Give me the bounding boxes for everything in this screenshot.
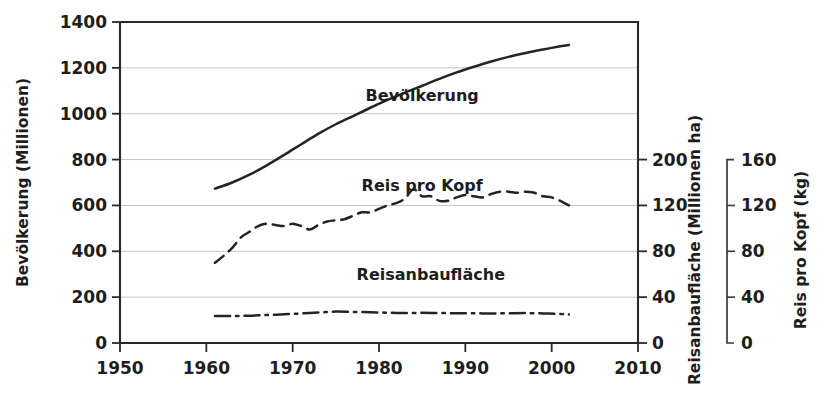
series-label-reisanbaufl-che: Reisanbaufläche: [357, 265, 506, 284]
percap-axis-tick-label: 80: [741, 241, 765, 261]
series-line-reisanbaufl-che: [215, 312, 569, 316]
right-area-axis-tick-label: 0: [652, 333, 664, 353]
right-area-axis-tick-label: 120: [652, 195, 688, 215]
left-axis-tick-label: 1400: [60, 12, 107, 32]
right-axis-reis-pro-kopf: 04080120160: [727, 150, 777, 353]
left-axis-tick-label: 200: [72, 287, 108, 307]
left-axis: 0200400600800100012001400: [60, 12, 120, 353]
x-axis-tick-label: 2010: [614, 358, 661, 378]
left-axis-title: Bevölkerung (Millionen): [14, 78, 32, 287]
right-axis-reisanbauflaeche: 04080120200: [638, 150, 688, 353]
x-axis-tick-label: 1970: [269, 358, 316, 378]
axis-titles: Bevölkerung (Millionen)Reisanbaufläche (…: [14, 78, 810, 385]
x-axis: 1950196019701980199020002010: [96, 343, 661, 378]
percap-axis-tick-label: 160: [741, 150, 777, 170]
line-chart: 0200400600800100012001400 04080120200 04…: [0, 0, 836, 405]
series-label-bev-lkerung: Bevölkerung: [366, 86, 479, 105]
left-axis-tick-label: 600: [72, 195, 108, 215]
left-axis-tick-label: 1000: [60, 104, 107, 124]
x-axis-tick-label: 1950: [96, 358, 143, 378]
left-axis-tick-label: 400: [72, 241, 108, 261]
left-axis-tick-label: 0: [95, 333, 107, 353]
right-area-axis-tick-label: 80: [652, 241, 676, 261]
x-axis-tick-label: 1990: [442, 358, 489, 378]
percap-axis-tick-label: 0: [741, 333, 753, 353]
series-labels: BevölkerungReis pro KopfReisanbaufläche: [357, 86, 506, 284]
left-axis-tick-label: 1200: [60, 58, 107, 78]
x-axis-tick-label: 1960: [183, 358, 230, 378]
right-area-axis-tick-label: 200: [652, 150, 688, 170]
series-label-reis-pro-kopf: Reis pro Kopf: [362, 176, 484, 195]
percap-axis-title: Reis pro Kopf (kg): [792, 171, 810, 329]
chart-figure: 0200400600800100012001400 04080120200 04…: [0, 0, 836, 405]
right-area-axis-tick-label: 40: [652, 287, 676, 307]
percap-axis-tick-label: 120: [741, 195, 777, 215]
x-axis-tick-label: 2000: [528, 358, 575, 378]
series-line-bev-lkerung: [215, 45, 569, 189]
series-line-reis-pro-kopf: [215, 189, 569, 262]
x-axis-tick-label: 1980: [355, 358, 402, 378]
right-area-axis-title: Reisanbaufläche (Millionen ha): [686, 115, 704, 385]
percap-axis-tick-label: 40: [741, 287, 765, 307]
left-axis-tick-label: 800: [72, 150, 108, 170]
